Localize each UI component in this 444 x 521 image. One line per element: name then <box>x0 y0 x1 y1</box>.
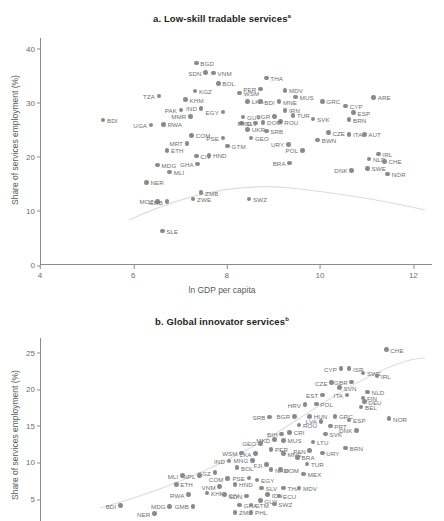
data-point-gha <box>237 503 242 508</box>
point-label-bol: BOL <box>241 464 254 471</box>
data-point-npl <box>197 473 202 478</box>
data-point-mkd <box>253 121 258 126</box>
data-point-sdn <box>203 70 208 75</box>
data-point-gmb <box>191 504 196 509</box>
data-point-mdg <box>155 163 160 168</box>
data-point-bgd <box>194 61 199 66</box>
data-point-per <box>258 87 263 92</box>
point-label-gtm: GTM <box>255 501 269 508</box>
point-label-rwa: RWA <box>168 121 182 128</box>
data-point-eth <box>165 148 170 153</box>
data-point-wsm <box>239 451 244 456</box>
point-label-mli: MLI <box>168 472 179 479</box>
data-point-nor <box>387 416 392 421</box>
data-point-civ <box>194 154 199 159</box>
data-point-vnm <box>217 484 222 489</box>
panel-a-x-axis-label: ln GDP per capita <box>0 285 444 295</box>
point-label-fji: FJI <box>253 461 262 468</box>
data-point-lka <box>245 99 250 104</box>
data-point-bra <box>295 455 300 460</box>
point-label-rwa: RWA <box>170 491 184 498</box>
data-point-brn <box>343 446 348 451</box>
point-label-mdv: MDV <box>303 485 317 492</box>
data-point-svn <box>337 385 342 390</box>
point-label-swz: SWZ <box>278 501 292 508</box>
point-label-com: COM <box>209 475 224 482</box>
data-point-prt <box>328 424 333 429</box>
data-point-mli <box>180 473 185 478</box>
data-point-ner <box>152 511 157 516</box>
x-tick-a-0: 4 <box>38 265 42 280</box>
point-label-mdg: MDG <box>162 162 177 169</box>
data-point-mkd <box>272 437 277 442</box>
data-point-cze <box>326 130 331 135</box>
point-label-esp: ESP <box>358 109 371 116</box>
point-label-mus: MUS <box>288 437 302 444</box>
data-point-pol <box>300 148 305 153</box>
point-label-brn: BRN <box>353 116 366 123</box>
data-point-per <box>269 447 274 452</box>
point-label-ury: URY <box>326 449 339 456</box>
data-point-mus <box>281 438 286 443</box>
data-point-mrt <box>185 141 190 146</box>
point-label-ind: IND <box>186 105 197 112</box>
data-point-eth <box>174 482 179 487</box>
point-label-hnd: HND <box>239 481 253 488</box>
point-label-ita: ITA <box>353 131 362 138</box>
data-point-dom <box>261 120 266 125</box>
data-point-swe <box>365 166 370 171</box>
data-point-irn <box>283 108 288 113</box>
data-point-est <box>320 393 325 398</box>
point-label-geo: GEO <box>242 440 256 447</box>
point-label-mrt: MRT <box>169 140 183 147</box>
point-label-sdn: SDN <box>188 69 201 76</box>
data-point-civ <box>222 492 227 497</box>
point-label-srb: SRB <box>270 127 283 134</box>
point-label-mus: MUS <box>300 93 314 100</box>
data-point-hnd <box>233 482 238 487</box>
point-label-khm: KHM <box>190 96 204 103</box>
point-label-gmb: GMB <box>175 503 189 510</box>
y-tick-b-2: 15 <box>26 421 40 430</box>
point-label-mmr: MMR <box>171 113 186 120</box>
point-label-tha: THA <box>270 74 283 81</box>
data-point-pol <box>314 402 319 407</box>
panel-a-y-axis-label: Share of services employment (%) <box>10 75 20 205</box>
data-point-svk <box>323 432 328 437</box>
x-tick-a-2: 8 <box>224 265 228 280</box>
data-point-aut <box>362 132 367 137</box>
point-label-bgd: BGD <box>200 59 214 66</box>
point-label-est: EST <box>306 392 318 399</box>
data-point-ury <box>320 451 325 456</box>
panel-a-plot-area: BDIBGDSDNVNMWSMTHABOLKGZTZAPERMDVMUSKHMP… <box>40 38 432 265</box>
point-label-bol: BOL <box>222 80 235 87</box>
point-label-srb: SRB <box>253 414 266 421</box>
point-label-egy: EGY <box>206 109 219 116</box>
data-point-sdn <box>244 494 249 499</box>
point-label-mli: MLI <box>174 169 185 176</box>
point-label-npl: NPL <box>183 472 195 479</box>
data-point-che <box>384 347 389 352</box>
data-point-geo <box>258 441 263 446</box>
point-label-swe: SWE <box>372 165 386 172</box>
point-label-tur: TUR <box>311 460 324 467</box>
data-point-mdg <box>167 504 172 509</box>
point-label-cze: CZE <box>315 379 328 386</box>
point-label-pol: POL <box>286 147 299 154</box>
point-label-ltu: LTU <box>317 438 329 445</box>
x-tick-a-1: 6 <box>131 265 135 280</box>
data-point-dnk <box>349 168 354 173</box>
y-tick-a-1: 10 <box>26 206 40 215</box>
data-point-bgr <box>292 414 297 419</box>
data-point-khm <box>183 97 188 102</box>
data-point-com <box>189 133 194 138</box>
point-label-ita: ITA <box>334 392 343 399</box>
point-label-egy: EGY <box>261 477 274 484</box>
point-label-grc: GRC <box>326 98 340 105</box>
data-point-pan <box>307 448 312 453</box>
data-point-zmb <box>233 510 238 515</box>
y-tick-a-2: 20 <box>26 152 40 161</box>
point-label-are: ARE <box>378 94 391 101</box>
data-point-rwa <box>161 122 166 127</box>
point-label-bel: BEL <box>365 403 377 410</box>
